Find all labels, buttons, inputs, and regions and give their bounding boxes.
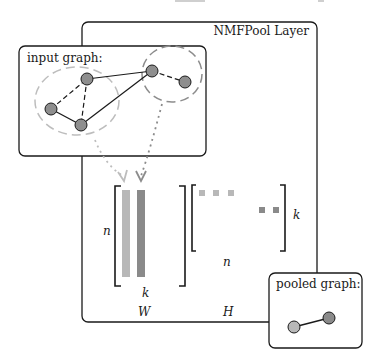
h-cols-label: n bbox=[223, 255, 231, 269]
node-d bbox=[146, 65, 158, 77]
node-c bbox=[75, 119, 87, 131]
layer-title: NMFPool Layer bbox=[213, 24, 309, 38]
pooled-node-2 bbox=[323, 312, 335, 324]
w-column-light bbox=[122, 190, 130, 277]
w-name: W bbox=[138, 305, 152, 319]
w-rows-label: n bbox=[103, 224, 111, 238]
nmfpool-diagram: NMFPool Layer input graph: n k W bbox=[0, 0, 379, 363]
node-a bbox=[45, 103, 57, 115]
w-cols-label: k bbox=[142, 286, 149, 300]
pooled-graph-title: pooled graph: bbox=[276, 277, 361, 291]
h-name: H bbox=[222, 305, 234, 319]
node-e bbox=[179, 76, 191, 88]
h-rows-label: k bbox=[293, 208, 300, 222]
header-fragment bbox=[175, 0, 324, 2]
pooled-node-1 bbox=[288, 321, 300, 333]
w-column-dark bbox=[137, 190, 145, 277]
node-b bbox=[81, 73, 93, 85]
input-graph-title: input graph: bbox=[27, 51, 103, 65]
